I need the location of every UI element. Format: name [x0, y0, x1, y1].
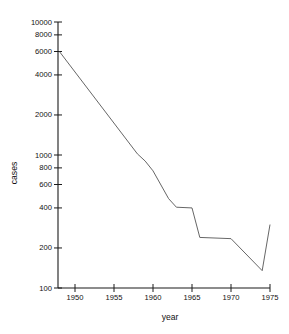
y-tick-label: 10000: [31, 18, 52, 27]
data-series-line: [59, 52, 270, 271]
x-axis-ticks: 195019551960196519701975: [67, 284, 279, 302]
y-tick-label: 200: [39, 243, 52, 252]
x-tick-label: 1955: [106, 293, 123, 302]
chart-container: 1000080006000400020001000800600400200100…: [0, 0, 289, 334]
y-axis-title: cases: [9, 162, 19, 184]
y-tick-label: 800: [39, 163, 52, 172]
y-tick-label: 100: [39, 284, 52, 293]
x-axis-title: year: [162, 312, 179, 322]
x-tick-label: 1965: [184, 293, 201, 302]
y-tick-label: 2000: [35, 110, 52, 119]
x-tick-label: 1950: [67, 293, 84, 302]
x-tick-label: 1970: [223, 293, 240, 302]
y-tick-label: 600: [39, 180, 52, 189]
y-tick-label: 1000: [35, 151, 52, 160]
x-tick-label: 1975: [262, 293, 279, 302]
y-tick-label: 4000: [35, 70, 52, 79]
y-axis-ticks: 1000080006000400020001000800600400200100: [31, 18, 62, 293]
y-tick-label: 6000: [35, 47, 52, 56]
x-tick-label: 1960: [145, 293, 162, 302]
y-tick-label: 400: [39, 203, 52, 212]
line-chart: 1000080006000400020001000800600400200100…: [0, 0, 289, 334]
y-tick-label: 8000: [35, 30, 52, 39]
